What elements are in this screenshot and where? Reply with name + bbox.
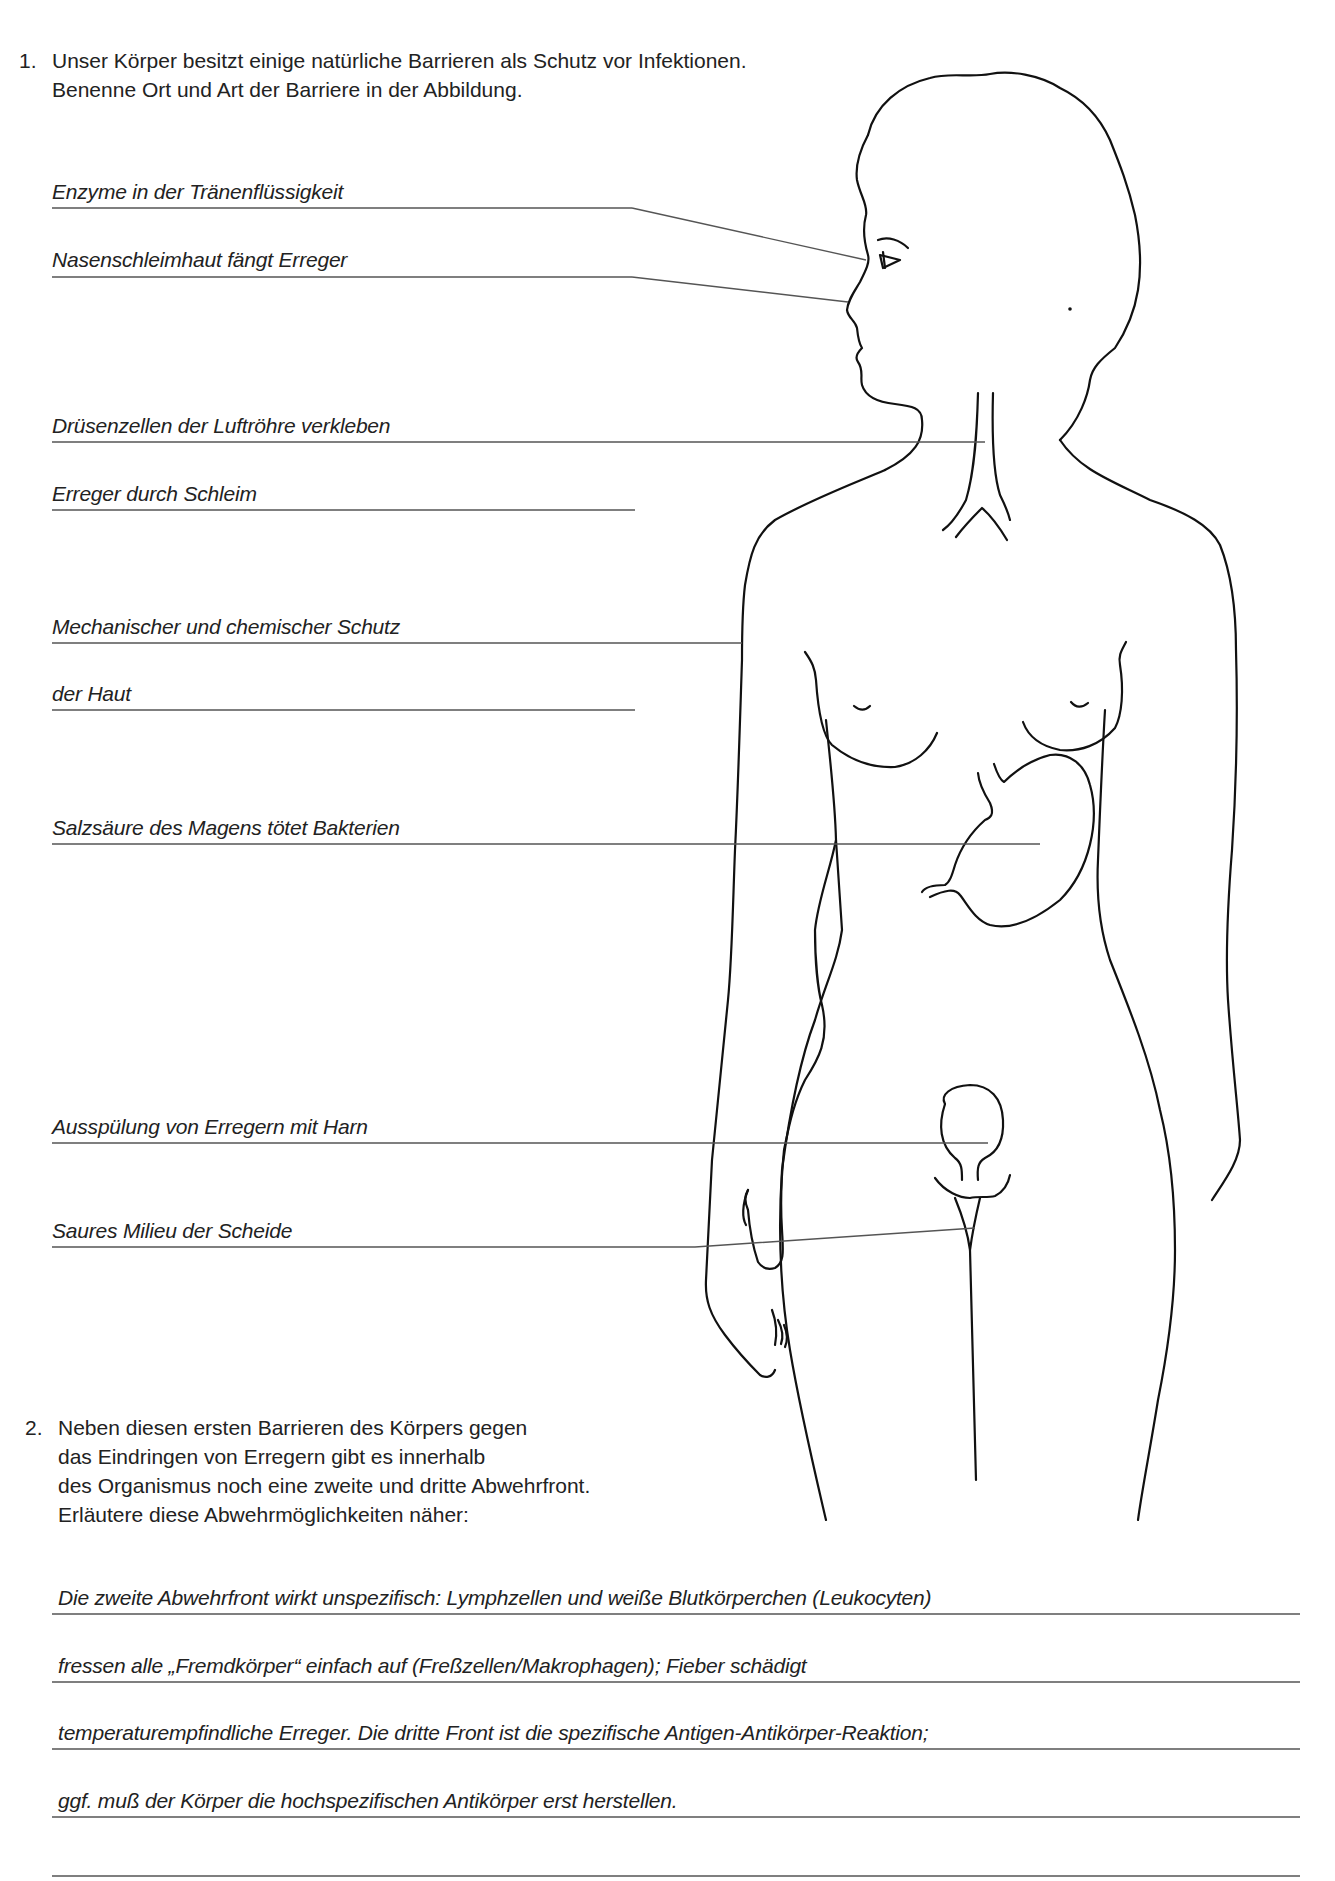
answer-skin-line2: der Haut bbox=[52, 682, 131, 706]
answer-trachea-line2: Erreger durch Schleim bbox=[52, 482, 257, 506]
task-text-line: Erläutere diese Abwehrmöglichkeiten nähe… bbox=[58, 1500, 590, 1529]
answer-tear-enzymes: Enzyme in der Tränenflüssigkeit bbox=[52, 180, 343, 204]
answer-line: ggf. muß der Körper die hochspezifischen… bbox=[58, 1789, 677, 1813]
body-outline bbox=[706, 73, 1240, 1520]
task-number: 1. bbox=[19, 46, 37, 75]
answer-nasal-mucosa: Nasenschleimhaut fängt Erreger bbox=[52, 248, 347, 272]
task-2-prompt: 2. Neben diesen ersten Barrieren des Kör… bbox=[58, 1413, 590, 1529]
task-text-line: Benenne Ort und Art der Barriere in der … bbox=[52, 75, 747, 104]
task-text-line: Neben diesen ersten Barrieren des Körper… bbox=[58, 1413, 590, 1442]
answer-skin-line1: Mechanischer und chemischer Schutz bbox=[52, 615, 400, 639]
answer-line: Die zweite Abwehrfront wirkt unspezifisc… bbox=[58, 1586, 931, 1610]
task-text-line: des Organismus noch eine zweite und drit… bbox=[58, 1471, 590, 1500]
task-text-line: Unser Körper besitzt einige natürliche B… bbox=[52, 46, 747, 75]
answer-line: fressen alle „Fremdkörper“ einfach auf (… bbox=[58, 1654, 807, 1678]
task-text-line: das Eindringen von Erregern gibt es inne… bbox=[58, 1442, 590, 1471]
answer-line: temperaturempfindliche Erreger. Die drit… bbox=[58, 1721, 928, 1745]
task-number: 2. bbox=[25, 1413, 43, 1442]
task-1-prompt: 1. Unser Körper besitzt einige natürlich… bbox=[52, 46, 747, 104]
label-lines bbox=[52, 208, 1300, 1876]
answer-stomach-acid: Salzsäure des Magens tötet Bakterien bbox=[52, 816, 400, 840]
answer-urine-flush: Ausspülung von Erregern mit Harn bbox=[52, 1115, 368, 1139]
answer-trachea-line1: Drüsenzellen der Luftröhre verkleben bbox=[52, 414, 390, 438]
answer-vaginal-acid: Saures Milieu der Scheide bbox=[52, 1219, 292, 1243]
